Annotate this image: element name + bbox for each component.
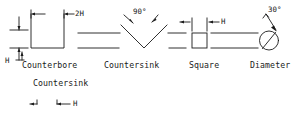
label-diameter: Diameter bbox=[250, 61, 290, 69]
counterbore-width-label: 2H bbox=[75, 10, 84, 17]
label-square: Square bbox=[189, 61, 219, 69]
countersink-angle-leader bbox=[124, 15, 158, 24]
diameter-glyph bbox=[260, 31, 279, 50]
counterbore-glyph bbox=[31, 14, 64, 48]
symbol-line-art bbox=[0, 0, 304, 118]
diameter-angle-label: 30° bbox=[268, 6, 281, 13]
label-countersink: Countersink bbox=[104, 61, 159, 69]
square-rails bbox=[211, 33, 258, 48]
square-glyph bbox=[192, 33, 207, 48]
partial-bottom-dimension bbox=[30, 100, 70, 106]
counterbore-left-dimension bbox=[10, 17, 28, 60]
counterbore-left-label: H bbox=[5, 57, 9, 64]
partial-bottom-dimension-label: H bbox=[73, 100, 77, 107]
counterbore-bottom-h-tick bbox=[16, 52, 24, 60]
countersink-angle-label: 90° bbox=[133, 8, 146, 15]
square-width-dimension bbox=[180, 18, 219, 31]
drawing-symbols-figure: 2H H 90° H 30° H Counterbore Countersink… bbox=[0, 0, 304, 118]
counterbore-width-dimension bbox=[31, 10, 74, 18]
label-countersink-row2: Countersink bbox=[33, 79, 88, 87]
label-counterbore: Counterbore bbox=[22, 61, 77, 69]
countersink-glyph bbox=[121, 25, 167, 48]
diameter-angle-leader bbox=[263, 14, 277, 32]
countersink-rails bbox=[78, 33, 186, 48]
square-width-label: H bbox=[221, 18, 225, 25]
